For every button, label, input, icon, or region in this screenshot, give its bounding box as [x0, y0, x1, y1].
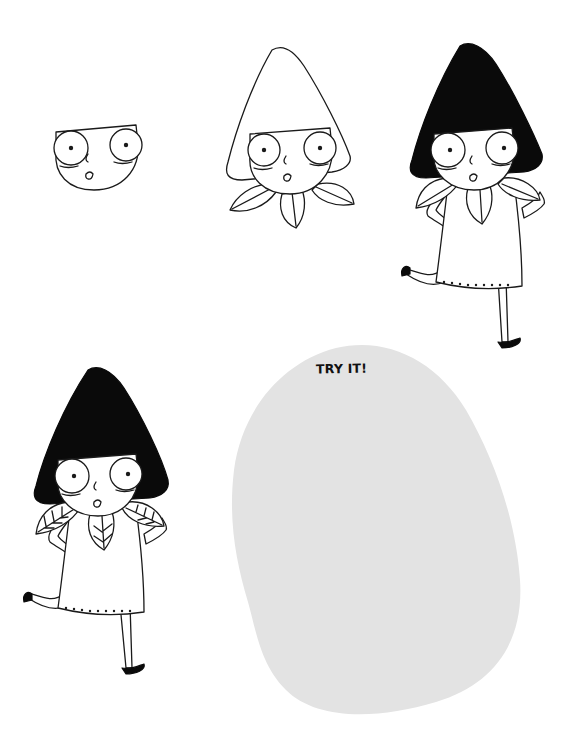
mouth [86, 172, 93, 179]
back-shoe [402, 266, 410, 276]
practice-area[interactable] [226, 340, 526, 725]
mouth [94, 500, 101, 507]
mouth [284, 174, 291, 181]
try-it-label: TRY IT! [316, 361, 367, 377]
step-1-drawing [48, 118, 148, 198]
step-2-drawing [222, 44, 357, 229]
mouth [470, 174, 477, 181]
practice-blob [232, 345, 520, 714]
step-3-drawing [398, 42, 558, 352]
step-4-drawing [22, 366, 182, 676]
back-shoe [24, 592, 32, 602]
